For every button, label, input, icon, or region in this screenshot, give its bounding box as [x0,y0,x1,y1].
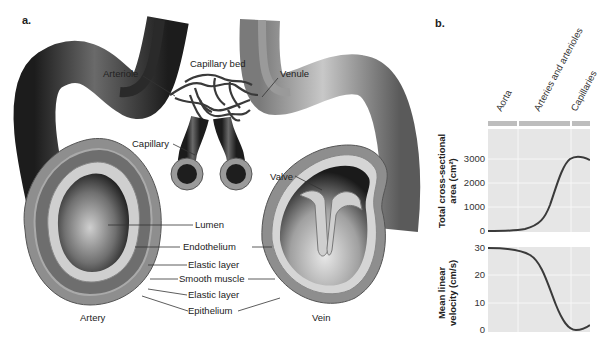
upper-tick-2000: 2000 [455,177,485,188]
strip-arteries [519,121,570,126]
upper-tick-1000: 1000 [455,201,485,212]
label-artery: Artery [80,313,105,323]
upper-plot-bg [488,129,590,232]
label-endothelium: Endothelium [183,242,236,252]
lower-tick-20: 20 [455,269,485,280]
label-capillary-bed: Capillary bed [190,59,245,69]
upper-ylabel-line2: area (cm²) [448,126,459,236]
label-elastic-layer-outer: Elastic layer [188,290,239,300]
capillary-tubes [171,118,252,190]
vein-cross-section [262,145,387,303]
velocity-curve [488,248,590,330]
label-venule: Venule [280,69,309,79]
upper-y-axis-label: Total cross-sectional area (cm²) [437,126,459,236]
label-vein: Vein [312,313,331,323]
area-curve [488,156,590,231]
strip-aorta [488,121,517,126]
lower-tick-10: 10 [455,297,485,308]
lower-plot-bg [488,247,590,332]
lower-tick-0: 0 [455,324,485,335]
lower-ylabel-line2: velocity (cm/s) [448,253,459,333]
label-epithelium: Epithelium [188,306,232,316]
lower-y-axis-label: Mean linear velocity (cm/s) [437,253,459,333]
strip-capillaries [572,121,590,126]
label-arteriole: Arteriole [103,69,138,79]
label-elastic-layer-inner: Elastic layer [188,260,239,270]
category-aorta: Aorta [493,88,513,113]
upper-tick-3000: 3000 [455,153,485,164]
lower-gridlines [488,247,590,332]
label-smooth-muscle: Smooth muscle [179,274,244,284]
category-capillaries: Capillaries [568,69,599,113]
label-capillary: Capillary [132,139,169,149]
label-lumen: Lumen [195,220,224,230]
lower-tick-30: 30 [455,242,485,253]
label-valve: Valve [270,172,293,182]
upper-tick-0: 0 [455,225,485,236]
upper-gridlines [488,129,590,232]
capillary-bed [170,75,258,122]
